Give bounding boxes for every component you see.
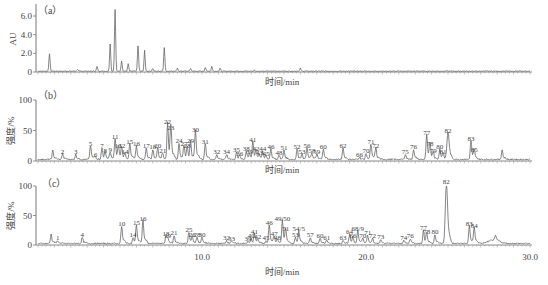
peak-label: 6	[94, 151, 98, 159]
panel-label: （b）	[38, 90, 63, 101]
peak-label: 82	[443, 178, 451, 186]
peak-label: 32	[213, 148, 221, 156]
peak-label: 10	[118, 220, 126, 228]
peak-label: 45	[262, 234, 270, 242]
peak-label: 73	[377, 233, 385, 241]
peak-label: 83	[467, 135, 475, 143]
peak-label: 72	[372, 142, 380, 150]
peak-label: 16	[139, 215, 147, 223]
peak-label: 21	[171, 229, 179, 237]
y-tick-label: 50	[23, 211, 33, 221]
peak-label: 77	[423, 129, 431, 137]
peak-label: 46	[267, 143, 275, 151]
peak-label: 49/50	[274, 215, 290, 223]
peak-label: 70	[363, 147, 371, 155]
panel-label: （a）	[38, 5, 62, 16]
peak-label: 66	[349, 232, 357, 240]
peak-label: 84	[471, 222, 479, 230]
peak-label: 85	[471, 146, 479, 154]
panel-label: （c）	[42, 178, 66, 189]
peak-label: 41	[249, 136, 257, 144]
peak-label: 14	[130, 231, 138, 239]
peak-label: 75	[402, 148, 410, 156]
peak-label: 72	[369, 232, 377, 240]
x-tick-label: 10.0	[194, 252, 210, 262]
y-axis-title: 强度/%	[5, 116, 16, 145]
peak-label: 11	[112, 133, 119, 141]
peak-label: 60	[320, 143, 328, 151]
peak-label: 54/5	[293, 225, 306, 233]
peak-label: 8	[103, 147, 107, 155]
x-tick-label: 20.0	[358, 252, 374, 262]
peak-label: 9	[108, 146, 112, 154]
y-tick-label: 0	[28, 156, 33, 166]
y-axis-title: AU	[8, 32, 18, 45]
peak-label: 78	[423, 228, 431, 236]
peak-label: 48	[274, 234, 282, 242]
peak-label: 31	[202, 138, 210, 146]
x-tick-label: 30.0	[522, 252, 538, 262]
peak-label: 1	[56, 234, 60, 242]
x-axis-title: 时间/min	[265, 266, 300, 277]
y-tick-label: 6.0	[21, 11, 33, 21]
y-tick-label: 2.0	[21, 48, 33, 58]
x-axis-title: 时间/min	[265, 164, 300, 175]
x-axis-title: 时间/min	[265, 76, 300, 87]
peak-label: 61	[323, 234, 331, 242]
y-tick-label: 0	[28, 67, 33, 77]
peak-label: 23	[167, 124, 175, 132]
y-tick-label: 100	[19, 95, 33, 105]
peak-label: 80	[431, 228, 439, 236]
peak-label: 46	[266, 219, 274, 227]
y-tick-label: 4.0	[21, 30, 33, 40]
y-tick-label: 100	[19, 181, 33, 191]
peak-label: 2	[61, 148, 65, 156]
peak-label: 34	[223, 148, 231, 156]
chromatogram-figure: 02.04.06.0（a）AU时间/min050100（b）强度/%时间/min…	[0, 0, 548, 285]
peak-label: 5	[89, 140, 93, 148]
panel-b: 050100（b）强度/%时间/min235678911131214151617…	[5, 90, 532, 175]
peak-label: 30	[199, 231, 207, 239]
panel-c: 050100（c）强度/%时间/min10.020.030.0141014151…	[5, 178, 538, 277]
panel-a: 02.04.06.0（a）AU时间/min	[8, 4, 532, 87]
peak-label: 76	[410, 143, 418, 151]
peak-label: 81	[440, 148, 448, 156]
y-tick-label: 0	[28, 240, 33, 250]
peak-label: 21	[159, 147, 167, 155]
peak-label: 14	[121, 148, 129, 156]
peak-label: 16	[133, 140, 141, 148]
peak-label: 33	[228, 235, 236, 243]
peak-label: 82	[445, 127, 453, 135]
peak-label: 42	[254, 233, 262, 241]
peak-label: 62	[340, 142, 348, 150]
peak-label: 57	[307, 231, 315, 239]
peak-label: 51	[281, 144, 289, 152]
peak-label: 51	[282, 225, 290, 233]
peak-label: 30	[192, 126, 200, 134]
y-axis-title: 强度/%	[5, 201, 16, 230]
y-tick-label: 50	[23, 126, 33, 136]
peak-label: 76	[407, 232, 415, 240]
chromatogram-trace	[38, 10, 530, 72]
peak-label: 29	[187, 137, 195, 145]
peak-label: 3	[74, 148, 78, 156]
peak-label: 4	[81, 231, 85, 239]
